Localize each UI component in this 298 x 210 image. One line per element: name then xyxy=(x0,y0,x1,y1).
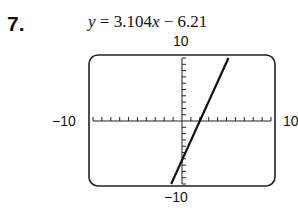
axes xyxy=(93,58,271,184)
graph-window xyxy=(0,0,298,210)
